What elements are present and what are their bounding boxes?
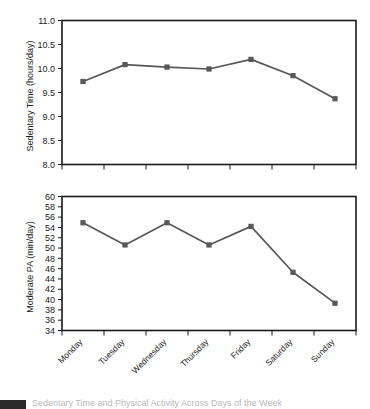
y-tick-label: 8.5 [42, 136, 55, 146]
data-marker [207, 67, 211, 71]
caption-text: Sedentary Time and Physical Activity Acr… [32, 398, 282, 408]
data-marker [81, 79, 85, 83]
data-marker [207, 243, 211, 247]
y-tick-group-bottom: 3436384042444648505254565860 [45, 192, 62, 336]
sedentary-time-svg: Sedentary Time (hours/day) 8.08.59.09.51… [0, 0, 370, 190]
data-marker [123, 63, 127, 67]
y-tick-label: 52 [45, 233, 55, 243]
data-marker [291, 270, 295, 274]
caption-marker-block [0, 400, 26, 409]
y-tick-label: 48 [45, 254, 55, 264]
plot-frame-bottom [62, 197, 356, 331]
y-axis-title-group-bottom: Moderate PA (min/day) [25, 221, 35, 312]
plot-frame-top [62, 21, 356, 165]
x-axis-label: Saturday [263, 336, 295, 368]
y-axis-title-bottom: Moderate PA (min/day) [25, 221, 35, 312]
y-tick-label: 34 [45, 326, 55, 336]
x-axis-label: Friday [229, 336, 253, 360]
y-tick-label: 9.0 [42, 112, 55, 122]
data-marker [333, 97, 337, 101]
caption-strip: Sedentary Time and Physical Activity Acr… [0, 398, 370, 409]
data-marker [249, 224, 253, 228]
y-tick-label: 38 [45, 305, 55, 315]
y-tick-label: 58 [45, 202, 55, 212]
y-tick-label: 40 [45, 295, 55, 305]
y-tick-label: 8.0 [42, 160, 55, 170]
data-marker [333, 301, 337, 305]
y-tick-label: 11.0 [38, 16, 55, 26]
chart-panel-sedentary-time: Sedentary Time (hours/day) 8.08.59.09.51… [0, 0, 370, 190]
data-marker [165, 221, 169, 225]
data-marker [123, 243, 127, 247]
data-marker [81, 221, 85, 225]
y-axis-title-top: Sedentary Time (hours/day) [25, 40, 35, 151]
y-tick-label: 42 [45, 284, 55, 294]
y-tick-label: 36 [45, 315, 55, 325]
y-axis-title-group-top: Sedentary Time (hours/day) [25, 40, 35, 151]
figure: Sedentary Time (hours/day) 8.08.59.09.51… [0, 0, 370, 409]
y-tick-label: 50 [45, 243, 55, 253]
x-axis-label: Monday [56, 336, 85, 365]
y-tick-label: 10.0 [37, 64, 55, 74]
y-tick-label: 10.5 [37, 40, 55, 50]
y-tick-label: 60 [45, 192, 55, 202]
y-tick-label: 44 [45, 274, 55, 284]
moderate-pa-svg: Moderate PA (min/day) 343638404244464850… [0, 186, 370, 409]
x-axis-label: Tuesday [97, 336, 127, 366]
data-marker [291, 74, 295, 78]
x-axis-category-labels: MondayTuesdayWednesdayThursdayFridaySatu… [56, 336, 337, 375]
y-tick-group-top: 8.08.59.09.510.010.511.0 [37, 16, 62, 170]
data-marker [165, 65, 169, 69]
y-tick-label: 46 [45, 264, 55, 274]
y-tick-label: 54 [45, 223, 55, 233]
data-marker [249, 57, 253, 61]
y-tick-label: 9.5 [42, 88, 55, 98]
x-axis-label: Sunday [309, 336, 337, 364]
x-axis-label: Wednesday [130, 336, 169, 375]
chart-panel-moderate-pa: Moderate PA (min/day) 343638404244464850… [0, 186, 370, 409]
x-axis-label: Thursday [178, 336, 211, 369]
y-tick-label: 56 [45, 212, 55, 222]
